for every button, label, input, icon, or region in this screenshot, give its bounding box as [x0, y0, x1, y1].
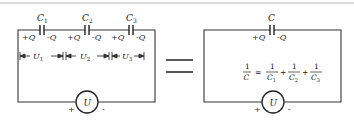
source-plus: +	[68, 105, 75, 114]
equivalent-circuit: C +Q -Q 1 C = 1 C1 + 1 C2 + 1 C3 U + -	[204, 13, 341, 114]
formula-term1-numerator: 1	[270, 62, 275, 71]
formula-term1-denominator: C1	[267, 73, 276, 83]
formula-lhs-numerator: 1	[245, 62, 250, 71]
formula-term3-numerator: 1	[314, 62, 319, 71]
charge-c2-negative: -Q	[92, 33, 102, 42]
charge-c-positive: +Q	[252, 33, 266, 42]
wire-right	[98, 30, 155, 102]
source-plus: +	[254, 105, 261, 114]
source-minus: -	[102, 105, 105, 114]
capacitor-c-label: C	[268, 13, 275, 23]
formula-equals: =	[255, 68, 261, 77]
capacitor-c1: C1 +Q -Q	[22, 13, 57, 42]
charge-c3-negative: -Q	[136, 33, 146, 42]
charge-c3-positive: +Q	[111, 33, 125, 42]
capacitor-c3: C3 +Q -Q	[111, 13, 146, 42]
equals-sign	[166, 60, 193, 72]
formula-lhs-denominator: C	[244, 73, 250, 82]
capacitor-c1-label: C1	[37, 13, 48, 24]
formula-plus-1: +	[280, 68, 286, 77]
capacitor-c2: C2 +Q -Q	[67, 13, 102, 42]
capacitor-c3-label: C3	[126, 13, 137, 24]
charge-c1-positive: +Q	[22, 33, 36, 42]
capacitors-in-series-diagram: C1 +Q -Q C2 +Q -Q C3 +Q -Q	[0, 0, 354, 124]
capacitor-c2-label: C2	[82, 13, 93, 24]
source-label: U	[270, 98, 278, 108]
formula-term2-denominator: C2	[289, 73, 298, 83]
charge-c1-negative: -Q	[47, 33, 57, 42]
source-minus: -	[288, 105, 291, 114]
formula-term2-numerator: 1	[292, 62, 297, 71]
formula-term3-denominator: C3	[311, 73, 320, 83]
charge-c-negative: -Q	[277, 33, 287, 42]
voltage-u1-label: U1	[33, 52, 43, 62]
capacitor-c: C +Q -Q	[252, 13, 287, 42]
formula-plus-2: +	[302, 68, 308, 77]
voltage-u3-label: U3	[122, 52, 133, 62]
voltage-u2-label: U2	[80, 52, 90, 62]
source-label: U	[84, 98, 92, 108]
series-circuit: C1 +Q -Q C2 +Q -Q C3 +Q -Q	[18, 13, 155, 114]
charge-c2-positive: +Q	[67, 33, 81, 42]
